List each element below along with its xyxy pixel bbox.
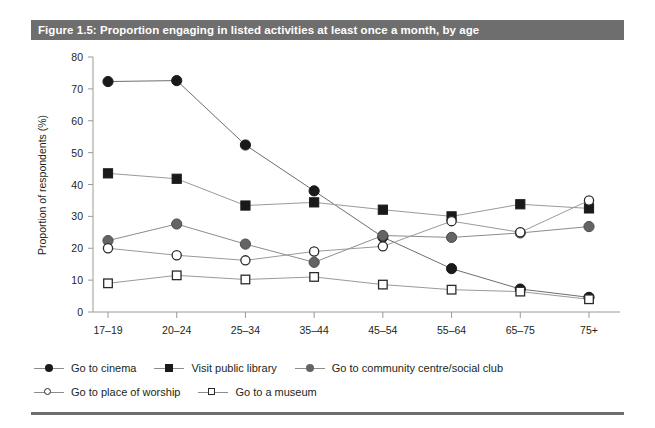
legend-swatch	[154, 362, 184, 374]
legend-swatch	[295, 362, 325, 374]
legend-swatch	[34, 362, 64, 374]
series-points-go-to-cinema	[103, 75, 594, 302]
legend-marker-filled-circle-grey	[306, 364, 314, 372]
y-axis-tick-label: 60	[71, 115, 83, 127]
data-point-go-to-place-of-worship	[516, 228, 525, 237]
legend-item-label: Go to place of worship	[71, 386, 180, 398]
data-point-go-to-a-museum	[241, 275, 250, 284]
legend-marker-filled-square	[165, 364, 173, 372]
data-point-go-to-place-of-worship	[241, 256, 250, 265]
series-points-visit-public-library	[103, 169, 593, 221]
legend-swatch	[34, 386, 64, 398]
legend-item-visit-public-library[interactable]: Visit public library	[154, 362, 276, 374]
data-point-go-to-a-museum	[516, 287, 525, 296]
data-point-go-to-community-centre-social-club	[240, 239, 250, 249]
data-point-go-to-place-of-worship	[103, 244, 112, 253]
data-point-go-to-community-centre-social-club	[378, 230, 388, 240]
data-point-go-to-a-museum	[447, 285, 456, 294]
y-axis-tick-label: 50	[71, 147, 83, 159]
y-axis-tick-label: 80	[71, 51, 83, 63]
legend-marker-open-square	[208, 388, 215, 395]
y-axis-tick-label: 20	[71, 242, 83, 254]
data-point-go-to-cinema	[103, 76, 113, 86]
y-axis-title: Proportion of respondents (%)	[36, 115, 48, 255]
data-point-go-to-cinema	[172, 75, 182, 85]
legend-item-label: Go to a museum	[235, 386, 316, 398]
series-lines	[108, 81, 589, 300]
data-point-visit-public-library	[103, 169, 112, 178]
x-axis-tick-label: 55–64	[437, 324, 466, 336]
data-point-go-to-cinema	[309, 186, 319, 196]
data-point-go-to-a-museum	[172, 271, 181, 280]
series-markers	[103, 75, 594, 303]
data-point-visit-public-library	[241, 201, 250, 210]
data-point-visit-public-library	[310, 198, 319, 207]
legend-swatch	[198, 386, 228, 398]
series-line-go-to-cinema	[108, 81, 589, 298]
y-axis-tick-label: 30	[71, 210, 83, 222]
data-point-go-to-community-centre-social-club	[446, 232, 456, 242]
legend-item-go-to-cinema[interactable]: Go to cinema	[34, 362, 136, 374]
data-point-go-to-place-of-worship	[172, 251, 181, 260]
y-axis-tick-label: 40	[71, 179, 83, 191]
data-point-visit-public-library	[516, 200, 525, 209]
legend-item-go-to-a-museum[interactable]: Go to a museum	[198, 386, 316, 398]
legend-item-label: Visit public library	[191, 362, 276, 374]
chart-legend-row-1: Go to cinemaVisit public libraryGo to co…	[34, 362, 521, 374]
y-axis-tick-label: 0	[77, 306, 83, 318]
data-point-visit-public-library	[378, 205, 387, 214]
legend-marker-open-circle	[44, 388, 51, 395]
y-axis-tick-label: 10	[71, 274, 83, 286]
data-point-go-to-community-centre-social-club	[309, 257, 319, 267]
legend-item-go-to-community-centre-social-club[interactable]: Go to community centre/social club	[295, 362, 503, 374]
x-axis-tick-label: 25–34	[231, 324, 260, 336]
x-axis-tick-label: 20–24	[162, 324, 191, 336]
series-points-go-to-a-museum	[104, 271, 594, 304]
data-point-go-to-a-museum	[585, 295, 594, 304]
x-axis-tick-label: 45–54	[368, 324, 397, 336]
legend-item-go-to-place-of-worship[interactable]: Go to place of worship	[34, 386, 180, 398]
bottom-divider	[31, 412, 624, 415]
chart-legend-row-2: Go to place of worshipGo to a museum	[34, 386, 335, 398]
data-point-go-to-place-of-worship	[378, 242, 387, 251]
data-point-go-to-a-museum	[310, 273, 319, 282]
data-point-go-to-place-of-worship	[447, 217, 456, 226]
x-axis-tick-label: 17–19	[93, 324, 122, 336]
figure-container: Figure 1.5: Proportion engaging in liste…	[0, 0, 655, 428]
legend-item-label: Go to community centre/social club	[332, 362, 503, 374]
data-point-go-to-a-museum	[104, 279, 113, 288]
y-axis-tick-label: 70	[71, 83, 83, 95]
x-axis-tick-label: 35–44	[300, 324, 329, 336]
data-point-go-to-place-of-worship	[310, 247, 319, 256]
data-point-go-to-community-centre-social-club	[172, 219, 182, 229]
legend-marker-filled-circle	[45, 364, 53, 372]
data-point-visit-public-library	[172, 174, 181, 183]
legend-item-label: Go to cinema	[71, 362, 136, 374]
data-point-go-to-community-centre-social-club	[584, 221, 594, 231]
data-point-go-to-place-of-worship	[584, 196, 593, 205]
data-point-go-to-a-museum	[379, 280, 388, 289]
x-axis-tick-label: 65–75	[506, 324, 535, 336]
x-axis-tick-label: 75+	[580, 324, 598, 336]
data-point-go-to-cinema	[240, 140, 250, 150]
data-point-go-to-cinema	[446, 264, 456, 274]
